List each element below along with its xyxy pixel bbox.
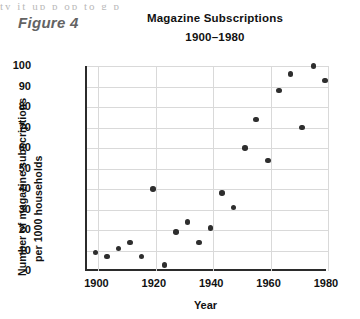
data-point: [253, 117, 259, 123]
y-gridline: [87, 148, 328, 149]
data-point: [242, 145, 248, 151]
y-axis-label-line2: per 1000 households: [32, 156, 44, 262]
x-gridline: [213, 66, 214, 271]
y-gridline: [87, 169, 328, 170]
y-gridline: [87, 210, 328, 211]
data-point: [276, 88, 282, 94]
data-point: [322, 78, 328, 84]
y-tick-label: 80: [0, 100, 31, 112]
page-bleed-text: ty it up p op to g p: [0, 0, 360, 10]
data-point: [288, 71, 294, 77]
x-gridline: [271, 66, 272, 271]
y-tick-label: 0: [0, 264, 31, 276]
y-gridline: [87, 87, 328, 88]
y-gridline: [87, 230, 328, 231]
data-point: [173, 229, 179, 235]
y-gridline: [87, 66, 328, 67]
x-tick-label: 1980: [303, 277, 349, 289]
data-point: [127, 240, 133, 246]
x-gridline: [156, 66, 157, 271]
data-point: [139, 254, 145, 260]
y-tick-label: 60: [0, 141, 31, 153]
data-point: [150, 186, 156, 192]
figure-label: Figure 4: [18, 14, 79, 31]
data-point: [311, 63, 317, 69]
data-point: [162, 262, 168, 268]
chart-subtitle: 1900–1980: [110, 31, 320, 43]
data-point: [265, 158, 271, 164]
data-point: [104, 254, 110, 260]
data-point: [208, 225, 214, 231]
x-axis-label: Year: [85, 299, 326, 311]
x-gridline: [328, 66, 329, 271]
x-gridline: [98, 66, 99, 271]
y-gridline: [87, 128, 328, 129]
x-tick-label: 1900: [73, 277, 119, 289]
data-point: [196, 240, 202, 246]
y-tick-label: 90: [0, 80, 31, 92]
y-tick-label: 30: [0, 203, 31, 215]
y-tick-label: 50: [0, 162, 31, 174]
x-tick-label: 1960: [246, 277, 292, 289]
y-tick-label: 10: [0, 244, 31, 256]
y-tick-label: 70: [0, 121, 31, 133]
data-point: [185, 219, 191, 225]
y-gridline: [87, 107, 328, 108]
y-gridline: [87, 251, 328, 252]
scatter-plot-area: [85, 66, 326, 271]
data-point: [219, 190, 225, 196]
y-tick-label: 40: [0, 182, 31, 194]
x-tick-label: 1940: [188, 277, 234, 289]
data-point: [299, 125, 305, 131]
y-gridline: [87, 189, 328, 190]
y-tick-label: 20: [0, 223, 31, 235]
chart-title: Magazine Subscriptions: [110, 12, 320, 24]
x-tick-label: 1920: [131, 277, 177, 289]
y-tick-label: 100: [0, 59, 31, 71]
